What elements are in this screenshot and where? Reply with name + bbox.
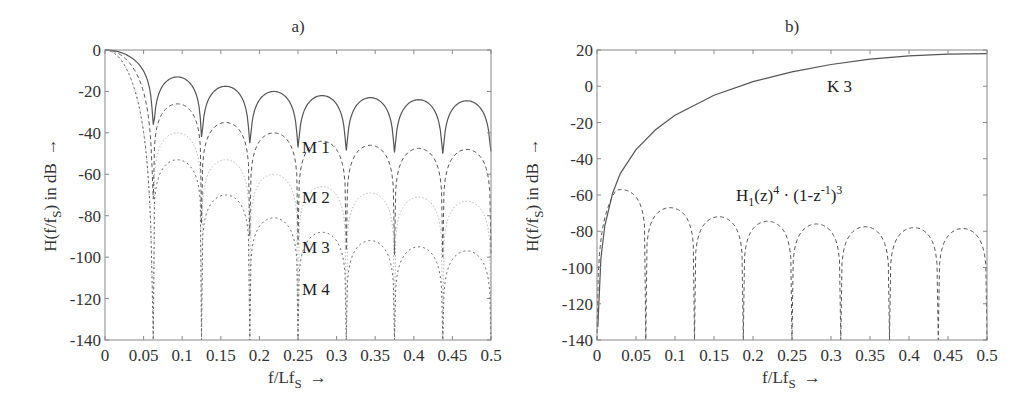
- x-tick-label: 0.5: [976, 346, 997, 365]
- y-tick-label: -80: [570, 222, 593, 241]
- x-tick-label: 0.1: [172, 346, 193, 365]
- x-tick-label: 0.4: [898, 346, 920, 365]
- chart-a: a) 00.050.10.150.20.250.30.350.40.450.5 …: [41, 17, 502, 391]
- x-tick-label: 0.4: [403, 346, 425, 365]
- curve-label-h1-product: H1(z)4 · (1-z-1)3: [736, 183, 842, 209]
- curve-h1-product: [597, 190, 987, 340]
- y-tick-label: 0: [585, 77, 594, 96]
- chart-a-title: a): [291, 17, 304, 36]
- x-tick-label: 0.05: [129, 346, 159, 365]
- x-tick-label: 0: [101, 346, 110, 365]
- curve-label-m3: M 3: [302, 238, 330, 257]
- x-tick-label: 0.1: [664, 346, 685, 365]
- y-tick-label: 20: [576, 41, 593, 60]
- curve-label-m2: M 2: [302, 188, 330, 207]
- chart-b-y-tick-labels: 200-20-40-60-80-100-120-140: [562, 41, 593, 350]
- x-tick-label: 0.35: [360, 346, 390, 365]
- figure-canvas: a) 00.050.10.150.20.250.30.350.40.450.5 …: [0, 0, 1032, 410]
- y-tick-label: -40: [78, 124, 101, 143]
- y-tick-label: -40: [570, 150, 593, 169]
- x-tick-label: 0.25: [283, 346, 313, 365]
- chart-a-y-axis-label: H(f/fS) in dB→: [41, 138, 64, 251]
- x-tick-label: 0: [593, 346, 602, 365]
- y-tick-label: -100: [70, 248, 101, 267]
- x-tick-label: 0.2: [249, 346, 270, 365]
- x-tick-label: 0.35: [855, 346, 885, 365]
- x-tick-label: 0.45: [933, 346, 963, 365]
- x-tick-label: 0.45: [438, 346, 468, 365]
- x-tick-label: 0.5: [480, 346, 501, 365]
- x-tick-label: 0.3: [326, 346, 347, 365]
- y-tick-label: -20: [78, 82, 101, 101]
- chart-b-x-tick-labels: 00.050.10.150.20.250.30.350.40.450.5: [593, 346, 998, 365]
- chart-b-y-axis-label: H(f/fS) in dB→: [523, 138, 546, 251]
- chart-b-x-axis-label: f/LfS→: [762, 368, 821, 391]
- x-tick-label: 0.3: [820, 346, 841, 365]
- chart-b-title: b): [785, 17, 799, 36]
- y-tick-label: -120: [562, 295, 593, 314]
- chart-a-x-axis-label: f/LfS→: [268, 368, 327, 391]
- x-tick-label: 0.15: [699, 346, 729, 365]
- y-tick-label: -80: [78, 207, 101, 226]
- y-tick-label: -20: [570, 114, 593, 133]
- chart-a-curves: [105, 50, 491, 340]
- y-tick-label: -140: [70, 331, 101, 350]
- y-tick-label: -60: [570, 186, 593, 205]
- chart-b: b) 00.050.10.150.20.250.30.350.40.450.5 …: [523, 17, 998, 391]
- x-tick-label: 0.2: [742, 346, 763, 365]
- curve-m3: [105, 50, 491, 340]
- y-tick-label: 0: [93, 41, 102, 60]
- curve-m1: [105, 50, 491, 154]
- y-tick-label: -60: [78, 165, 101, 184]
- x-tick-label: 0.05: [621, 346, 651, 365]
- x-tick-label: 0.25: [777, 346, 807, 365]
- y-tick-label: -120: [70, 290, 101, 309]
- curve-label-m1: M 1: [302, 138, 330, 157]
- y-tick-label: -100: [562, 259, 593, 278]
- curve-m2: [105, 50, 491, 257]
- curve-label-m4: M 4: [302, 280, 330, 299]
- y-tick-label: -140: [562, 331, 593, 350]
- x-tick-label: 0.15: [206, 346, 236, 365]
- curve-label-k3: K 3: [827, 77, 852, 96]
- chart-a-x-tick-labels: 00.050.10.150.20.250.30.350.40.450.5: [101, 346, 502, 365]
- chart-a-y-tick-labels: 0-20-40-60-80-100-120-140: [70, 41, 101, 350]
